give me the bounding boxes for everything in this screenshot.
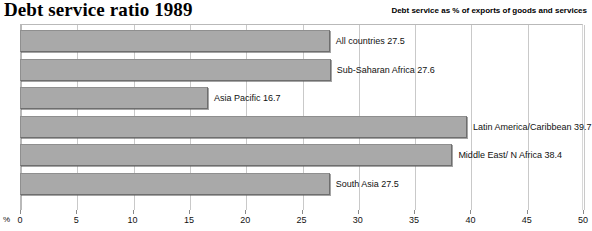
tick-label-10: 10	[128, 215, 138, 226]
tick-mark-5	[76, 210, 77, 214]
bar-value-label: All countries 27.5	[336, 36, 405, 47]
bar-row[interactable]: Asia Pacific 16.7	[20, 87, 583, 109]
bar-row[interactable]: Middle East/ N Africa 38.4	[20, 144, 583, 166]
tick-label-35: 35	[409, 215, 419, 226]
tick-mark-35	[414, 210, 415, 214]
bar-row[interactable]: Latin America/Caribbean 39.7	[20, 116, 583, 138]
tick-label-0: 0	[17, 215, 22, 226]
bar-value-label: Latin America/Caribbean 39.7	[473, 121, 592, 132]
tick-label-50: 50	[578, 215, 588, 226]
chart-subtitle: Debt service as % of exports of goods an…	[391, 6, 587, 16]
tick-mark-40	[470, 210, 471, 214]
bar[interactable]	[20, 59, 331, 81]
tick-label-15: 15	[184, 215, 194, 226]
page-title: Debt service ratio 1989	[4, 0, 193, 21]
bar-series: All countries 27.5Sub-Saharan Africa 27.…	[20, 24, 583, 210]
bar[interactable]	[20, 173, 330, 195]
tick-mark-20	[245, 210, 246, 214]
tick-mark-10	[133, 210, 134, 214]
bar-row[interactable]: South Asia 27.5	[20, 173, 583, 195]
bar-value-label: Middle East/ N Africa 38.4	[458, 150, 562, 161]
tick-label-30: 30	[353, 215, 363, 226]
bar-value-label: Asia Pacific 16.7	[214, 93, 281, 104]
tick-label-40: 40	[465, 215, 475, 226]
bar-value-label: Sub-Saharan Africa 27.6	[337, 64, 435, 75]
axis-unit-label: %	[3, 215, 10, 225]
tick-mark-30	[358, 210, 359, 214]
bar[interactable]	[20, 87, 208, 109]
tick-mark-15	[189, 210, 190, 214]
tick-label-25: 25	[296, 215, 306, 226]
tick-mark-0	[20, 210, 21, 214]
tick-mark-50	[583, 210, 584, 214]
tick-label-5: 5	[74, 215, 79, 226]
tick-label-45: 45	[522, 215, 532, 226]
bar-value-label: South Asia 27.5	[336, 178, 399, 189]
bar-row[interactable]: All countries 27.5	[20, 30, 583, 52]
gridline-50	[584, 25, 585, 210]
bar[interactable]	[20, 116, 467, 138]
bar[interactable]	[20, 144, 452, 166]
tick-label-20: 20	[240, 215, 250, 226]
x-axis: 05101520253035404550	[20, 210, 583, 230]
tick-mark-25	[302, 210, 303, 214]
bar[interactable]	[20, 30, 330, 52]
tick-mark-45	[527, 210, 528, 214]
bar-row[interactable]: Sub-Saharan Africa 27.6	[20, 59, 583, 81]
